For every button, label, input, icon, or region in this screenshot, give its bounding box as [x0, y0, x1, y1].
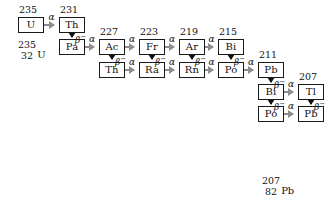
- alpha-label-u235-to-th231: α: [49, 13, 55, 22]
- nuclide-box-ac227: Ac: [99, 39, 125, 55]
- mass-number-fr223: 223: [140, 27, 158, 37]
- alpha-label-bi211-to-tl207: α: [288, 80, 294, 89]
- nuclide-box-pb211: Pb: [258, 62, 284, 78]
- alpha-arrow-po211-to-pb207: [284, 113, 293, 115]
- nuclide-symbol: Th: [65, 20, 79, 30]
- beta-arrow-tl207-to-pb207: [310, 100, 312, 104]
- nuclide-symbol: Bi: [226, 42, 237, 52]
- alpha-arrow-bi211-to-tl207: [284, 91, 293, 93]
- alpha-label-po211-to-pb207: α: [288, 102, 294, 111]
- mass-number-at219: 219: [180, 27, 198, 37]
- alpha-arrow-th227-to-ra223: [125, 69, 134, 71]
- beta-label-ac227-to-th227: β−: [115, 56, 126, 67]
- alpha-arrow-at219-to-bi215: [205, 46, 213, 48]
- nuclide-box-tl207: Tl: [298, 84, 324, 100]
- nuclide-symbol: Fr: [146, 42, 158, 52]
- beta-arrow-fr223-to-ra223: [151, 55, 153, 59]
- parent-isotope-notation: 235 32 U: [18, 40, 46, 61]
- beta-label-pb211-to-bi211: β−: [274, 79, 285, 90]
- nuclide-symbol: Tl: [306, 87, 316, 97]
- alpha-arrow-po215-to-pb211: [244, 69, 253, 71]
- beta-label-tl207-to-pb207: β−: [314, 101, 325, 112]
- alpha-label-po215-to-pb211: α: [248, 58, 254, 67]
- nuclide-box-bi215: Bi: [218, 39, 244, 55]
- alpha-label-fr223-to-at219: α: [169, 35, 175, 44]
- daughter-isotope-notation: 207 82 Pb: [262, 176, 294, 197]
- mass-number-u235: 235: [19, 5, 37, 15]
- alpha-label-at219-to-bi215: α: [209, 35, 215, 44]
- beta-label-bi215-to-po215: β−: [234, 56, 245, 67]
- alpha-arrow-fr223-to-at219: [165, 46, 174, 48]
- mass-number-bi215: 215: [219, 27, 237, 37]
- mass-number-tl207: 207: [299, 72, 317, 82]
- alpha-arrow-ac227-to-fr223: [125, 46, 134, 48]
- decay-chain-diagram: αβ−αβ−ααβ−ααβ−ααβ−αβ−αβ−β−α 235231227223…: [0, 0, 332, 209]
- nuclide-box-th231: Th: [59, 17, 85, 33]
- beta-arrow-pb211-to-bi211: [270, 78, 272, 82]
- parent-isotope-numbers: 235 32: [18, 40, 36, 61]
- beta-label-at219-to-rn219: β−: [195, 56, 206, 67]
- beta-label-fr223-to-ra223: β−: [155, 56, 166, 67]
- nuclide-box-fr223: Fr: [139, 39, 165, 55]
- beta-arrow-at219-to-rn219: [191, 55, 193, 59]
- nuclide-symbol: Pb: [264, 65, 278, 75]
- parent-symbol: U: [37, 50, 45, 61]
- mass-number-ac227: 227: [100, 27, 118, 37]
- daughter-atomic-number: 82: [265, 187, 277, 198]
- nuclide-symbol: Ar: [186, 42, 198, 52]
- daughter-symbol: Pb: [281, 186, 294, 197]
- alpha-arrow-rn219-to-po215: [205, 69, 213, 71]
- alpha-label-ra223-to-rn219: α: [169, 58, 175, 67]
- alpha-label-pa231-to-ac227: α: [89, 35, 95, 44]
- mass-number-th231: 231: [60, 5, 78, 15]
- daughter-isotope-numbers: 207 82: [262, 176, 280, 197]
- beta-arrow-bi215-to-po215: [230, 55, 232, 59]
- parent-atomic-number: 32: [21, 51, 33, 62]
- alpha-label-ac227-to-fr223: α: [129, 35, 135, 44]
- alpha-label-th227-to-ra223: α: [129, 58, 135, 67]
- nuclide-symbol: Ac: [105, 42, 118, 52]
- alpha-arrow-u235-to-th231: [44, 24, 54, 26]
- alpha-label-rn219-to-po215: α: [209, 58, 215, 67]
- beta-arrow-bi211-to-po211: [270, 100, 272, 104]
- alpha-arrow-pa231-to-ac227: [85, 46, 94, 48]
- beta-label-th231-to-pa231: β−: [75, 34, 86, 45]
- alpha-arrow-ra223-to-rn219: [165, 69, 174, 71]
- mass-number-pb211: 211: [259, 50, 277, 60]
- nuclide-box-u235: U: [18, 17, 44, 33]
- beta-label-bi211-to-po211: β−: [274, 101, 285, 112]
- beta-arrow-th231-to-pa231: [71, 33, 73, 37]
- beta-arrow-ac227-to-th227: [111, 55, 113, 59]
- nuclide-symbol: U: [27, 20, 36, 30]
- nuclide-box-at219: Ar: [179, 39, 205, 55]
